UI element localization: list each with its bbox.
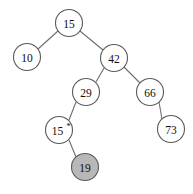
tree-edge-n29-n15dup: [69, 102, 76, 120]
node-label-15: 15: [63, 18, 75, 30]
node-label-29: 29: [80, 87, 92, 99]
tree-edge-n66-n73: [159, 102, 162, 119]
node-label-42: 42: [108, 53, 120, 65]
tree-nodes-group: 151042296615*7319: [14, 10, 185, 181]
tree-edge-n42-n66: [124, 67, 140, 83]
node-label-10: 10: [21, 52, 33, 64]
binary-search-tree-figure: 151042296615*7319: [0, 0, 193, 194]
tree-node-29[interactable]: 29: [73, 79, 100, 106]
tree-node-66[interactable]: 66: [137, 79, 164, 106]
node-label-15star: 15: [52, 125, 64, 137]
tree-edge-n15dup-n19: [69, 140, 76, 157]
node-label-19: 19: [79, 162, 91, 174]
tree-node-15[interactable]: 15: [56, 10, 83, 37]
tree-node-73[interactable]: 73: [158, 116, 185, 143]
tree-node-15star[interactable]: 15*: [46, 117, 73, 144]
node-mark-asterisk: *: [66, 121, 71, 131]
node-label-73: 73: [165, 124, 177, 136]
tree-edge-n15root-n10: [38, 31, 58, 49]
tree-canvas: 151042296615*7319: [0, 0, 193, 194]
tree-edge-n15root-n42: [80, 31, 103, 50]
tree-edge-n42-n29: [96, 68, 104, 82]
node-label-66: 66: [144, 87, 156, 99]
tree-node-19[interactable]: 19: [72, 154, 99, 181]
tree-node-42[interactable]: 42: [101, 45, 128, 72]
tree-node-10[interactable]: 10: [14, 44, 41, 71]
